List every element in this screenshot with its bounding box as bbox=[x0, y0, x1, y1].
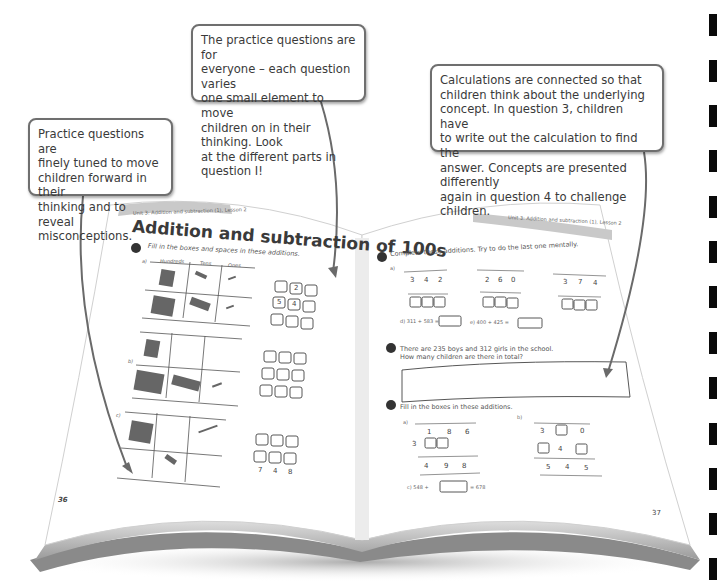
q4a-top: 6 bbox=[465, 428, 469, 436]
callout-line: concept. In question 3, children have bbox=[440, 102, 654, 131]
edge-stripe bbox=[709, 423, 717, 445]
q4a-answer: 4 bbox=[424, 462, 428, 470]
edge-stripe bbox=[709, 513, 717, 535]
q4c-left: c) 548 + bbox=[407, 484, 429, 490]
callout-everyone: The practice questions are for everyone … bbox=[191, 24, 366, 102]
q4-instruction: Fill in the boxes in these additions. bbox=[400, 403, 513, 411]
q2c-top: 7 bbox=[578, 278, 582, 286]
q4a-answer: 8 bbox=[462, 462, 466, 470]
callout-line: to write out the calculation to find the bbox=[440, 131, 654, 160]
q3-line1: There are 235 boys and 312 girls in the … bbox=[400, 345, 553, 353]
q2a-label: a) bbox=[390, 265, 395, 271]
edge-stripe bbox=[709, 150, 717, 172]
q4c-right: = 678 bbox=[470, 484, 485, 490]
right-page-number: 37 bbox=[652, 509, 661, 517]
q4b-answer: 5 bbox=[546, 463, 550, 471]
callout-practice-questions: Practice questions are finely tuned to m… bbox=[28, 118, 173, 196]
q4b-answer: 5 bbox=[584, 464, 588, 472]
q4b-top: 3 bbox=[540, 427, 544, 435]
q1b-label: b) bbox=[128, 358, 133, 364]
edge-stripe bbox=[709, 468, 717, 490]
edge-stripe bbox=[709, 558, 717, 580]
callout-line: again in question 4 to challenge childre… bbox=[440, 190, 654, 219]
q1a-box-value: 2 bbox=[294, 284, 298, 292]
q3-line2: How many children are there in total? bbox=[400, 353, 523, 361]
q2e: e) 400 + 425 = bbox=[470, 319, 509, 325]
q4a-add: 3 bbox=[412, 440, 416, 448]
edge-stripe bbox=[709, 14, 717, 36]
q1c-label: c) bbox=[116, 412, 121, 418]
q4b-label: b) bbox=[517, 414, 522, 420]
q4a-top: 8 bbox=[447, 428, 451, 436]
table-header-hundreds: Hundreds bbox=[160, 258, 184, 264]
q4a-top: 1 bbox=[427, 428, 431, 436]
edge-stripe bbox=[709, 60, 717, 82]
q1a-label: a) bbox=[142, 258, 147, 264]
q2d: d) 311 + 583 = bbox=[400, 318, 439, 324]
callout-line: Practice questions are bbox=[38, 127, 163, 156]
q1c-answer: 8 bbox=[288, 468, 292, 476]
edge-stripe bbox=[709, 377, 717, 399]
q4b-add: 4 bbox=[558, 445, 562, 453]
callout-line: answer. Concepts are presented different… bbox=[440, 161, 654, 190]
q2a-top: 4 bbox=[424, 276, 428, 284]
callout-line: at the different parts in question I! bbox=[201, 150, 356, 179]
edge-stripe bbox=[709, 105, 717, 127]
callout-line: one small element to move bbox=[201, 91, 356, 120]
table-header-tens: Tens bbox=[200, 260, 211, 266]
q1c-answer: 7 bbox=[258, 466, 262, 474]
callout-line: finely tuned to move bbox=[38, 156, 163, 171]
callout-line: children on in their thinking. Look bbox=[201, 121, 356, 150]
edge-stripe bbox=[709, 286, 717, 308]
table-header-ones: Ones bbox=[228, 262, 241, 268]
callout-line: The practice questions are for bbox=[201, 33, 356, 62]
callout-line: Calculations are connected so that bbox=[440, 73, 654, 88]
left-page-number: 36 bbox=[58, 496, 68, 504]
q2c-top: 4 bbox=[593, 279, 597, 287]
q4b-top: 0 bbox=[580, 427, 584, 435]
q4a-answer: 9 bbox=[444, 462, 448, 470]
edge-stripe bbox=[709, 332, 717, 354]
q1a-box-value: 5 bbox=[277, 298, 281, 306]
q1a-box-value: 4 bbox=[292, 300, 296, 308]
q1c-answer: 4 bbox=[273, 467, 277, 475]
q2a-top: 2 bbox=[438, 276, 442, 284]
edge-stripe bbox=[709, 196, 717, 218]
q2a-top: 3 bbox=[410, 276, 414, 284]
q2b-top: 6 bbox=[498, 276, 502, 284]
callout-line: everyone – each question varies bbox=[201, 62, 356, 91]
callout-calculations-connected: Calculations are connected so that child… bbox=[430, 64, 664, 152]
q2c-top: 3 bbox=[563, 278, 567, 286]
q4b-answer: 4 bbox=[565, 463, 569, 471]
callout-line: children forward in their bbox=[38, 171, 163, 200]
q2b-top: 2 bbox=[485, 276, 489, 284]
q2b-top: 0 bbox=[511, 276, 515, 284]
callout-line: children think about the underlying bbox=[440, 88, 654, 103]
edge-stripe bbox=[709, 241, 717, 263]
q4a-label: a) bbox=[403, 419, 408, 425]
